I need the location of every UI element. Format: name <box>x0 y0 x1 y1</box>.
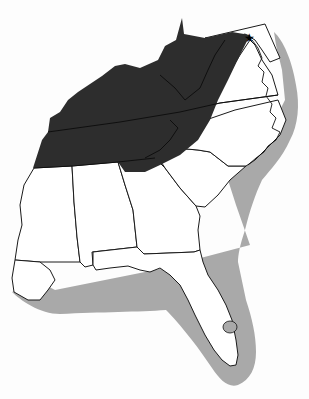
star-icon: ★ <box>244 31 255 45</box>
state-mississippi <box>15 166 80 262</box>
lake-okeechobee <box>223 321 237 333</box>
map-container: ★ <box>0 0 309 399</box>
southeast-us-map: ★ <box>0 0 309 399</box>
